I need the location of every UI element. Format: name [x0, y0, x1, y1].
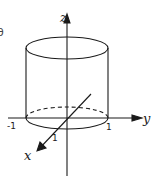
y-axis-label: y [142, 111, 151, 126]
x-axis [38, 94, 91, 150]
edge-glyph-fragment: θ [0, 26, 4, 39]
z-axis-label: z [59, 10, 67, 25]
y-tick-1: 1 [106, 122, 112, 132]
diagram-canvas: θ z y x -1 1 1 [0, 0, 165, 183]
y-axis-arrowhead [132, 115, 142, 121]
x-tick-1: 1 [52, 133, 58, 143]
x-axis-label: x [24, 148, 32, 163]
y-tick-neg1: -1 [7, 121, 16, 131]
cylinder-diagram: z y x -1 1 1 [0, 0, 165, 183]
